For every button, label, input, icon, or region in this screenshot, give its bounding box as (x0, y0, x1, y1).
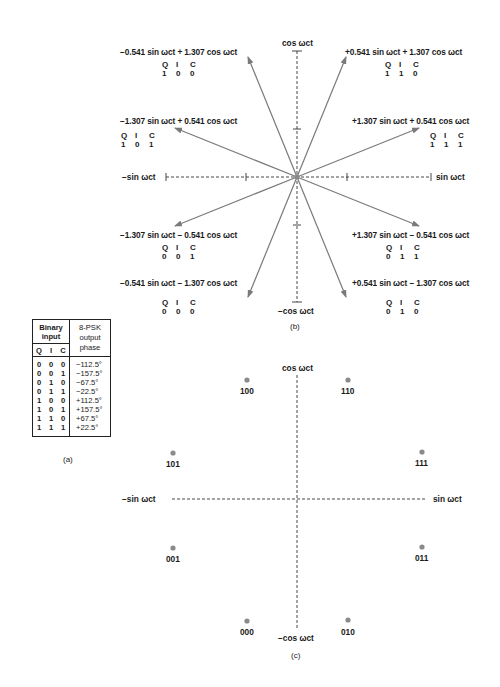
qic-q: 0 (386, 252, 400, 261)
qic-header-c: C (190, 298, 204, 307)
figure-c-caption: (c) (291, 651, 300, 660)
qic-i: 0 (176, 252, 190, 261)
qic-c: 1 (149, 140, 163, 149)
qic-q: 0 (386, 307, 400, 316)
qic-header-i: I (135, 131, 149, 140)
axis-label-pos-sin: sin ωct (433, 494, 462, 504)
cell-c: 1 (57, 369, 70, 378)
phasor-label-011: +1.307 sin ωct − 0.541 cos ωct (352, 230, 469, 240)
qic-header-q: Q (386, 298, 400, 307)
phasor-label-100: −0.541 sin ωct + 1.307 cos ωct (120, 47, 237, 57)
qic-q: 1 (385, 69, 399, 78)
qic-i: 0 (135, 140, 149, 149)
qic-header-q: Q (385, 60, 399, 69)
cell-phase: +112.5° (70, 396, 111, 405)
point-101 (170, 450, 175, 455)
qic-c: 0 (190, 69, 204, 78)
table-row: 0 1 0 −67.5° (33, 378, 111, 387)
axis-label-neg-cos: −cos ωct (278, 633, 314, 643)
cell-q: 1 (33, 414, 46, 423)
qic-header-i: I (176, 60, 190, 69)
cell-q: 0 (33, 387, 46, 396)
cell-c: 1 (57, 423, 70, 437)
cell-phase: +67.5° (70, 414, 111, 423)
axis-label-neg-sin: −sin ωct (122, 172, 156, 182)
qic-header-i: I (176, 298, 190, 307)
cell-q: 1 (33, 423, 46, 437)
truth-table: Binary input 8-PSK output phase Q I C 0 … (32, 319, 111, 437)
cell-phase: −157.5° (70, 369, 111, 378)
table-row: 1 0 1 +157.5° (33, 405, 111, 414)
phasor-label-101: −1.307 sin ωct + 0.541 cos ωct (120, 116, 237, 126)
qic-header-c: C (149, 131, 163, 140)
qic-111: Q I C 1 1 1 (430, 131, 472, 149)
phasor-label-000: −0.541 sin ωct − 1.307 cos ωct (120, 278, 237, 288)
qic-header-i: I (444, 131, 458, 140)
phasor-111 (297, 128, 419, 177)
qic-q: 0 (162, 307, 176, 316)
qic-q: 1 (121, 140, 135, 149)
phasor-label-001: −1.307 sin ωct − 0.541 cos ωct (120, 230, 237, 240)
qic-c: 0 (413, 69, 427, 78)
cell-q: 0 (33, 378, 46, 387)
constellation-points (170, 377, 424, 623)
point-label-101: 101 (166, 459, 180, 469)
figure-a-caption: (a) (63, 455, 73, 464)
point-label-110: 110 (341, 386, 354, 396)
point-label-001: 001 (166, 554, 180, 564)
axis-label-pos-cos: cos ωct (282, 38, 313, 48)
phasor-100 (248, 57, 297, 177)
qic-header-i: I (400, 243, 414, 252)
cell-i: 1 (45, 387, 57, 396)
qic-c: 1 (190, 252, 204, 261)
phasor-001 (175, 177, 297, 226)
cell-i: 1 (45, 414, 57, 423)
header-binary-input: Binary input (33, 320, 70, 344)
qic-header-c: C (414, 243, 428, 252)
qic-q: 0 (162, 252, 176, 261)
cell-c: 0 (57, 396, 70, 405)
qic-c: 1 (458, 140, 472, 149)
table-row: 1 1 1 +22.5° (33, 423, 111, 437)
cell-phase: +157.5° (70, 405, 111, 414)
cell-i: 0 (45, 360, 57, 369)
cell-q: 0 (33, 360, 46, 369)
qic-i: 1 (400, 252, 414, 261)
header-binary-line1: Binary (39, 323, 63, 332)
qic-c: 0 (190, 307, 204, 316)
point-label-000: 000 (240, 627, 254, 637)
table-row: 1 0 0 +112.5° (33, 396, 111, 405)
header-q: Q (33, 344, 46, 357)
point-label-011: 011 (415, 553, 428, 563)
qic-header-i: I (176, 243, 190, 252)
qic-000: Q I C 0 0 0 (162, 298, 204, 316)
point-111 (419, 449, 424, 454)
header-output-line2: output (79, 333, 100, 342)
phasor-origin (295, 175, 300, 180)
cell-i: 1 (45, 423, 57, 437)
qic-101: Q I C 1 0 1 (121, 131, 163, 149)
point-010 (345, 617, 350, 622)
cell-phase: +22.5° (70, 423, 111, 437)
qic-header-q: Q (162, 243, 176, 252)
qic-header-c: C (414, 298, 428, 307)
axis-label-neg-sin: −sin ωct (122, 494, 156, 504)
cell-q: 1 (33, 396, 46, 405)
qic-i: 1 (444, 140, 458, 149)
qic-010: Q I C 0 1 0 (386, 298, 428, 316)
point-100 (244, 377, 249, 382)
point-011 (419, 544, 424, 549)
qic-100: Q I C 1 0 0 (162, 60, 204, 78)
qic-i: 1 (399, 69, 413, 78)
cell-c: 1 (57, 387, 70, 396)
point-110 (345, 377, 350, 382)
header-output-line1: 8-PSK (79, 323, 101, 332)
point-label-010: 010 (341, 627, 355, 637)
phasor-101 (175, 128, 297, 177)
constellation-axes (172, 375, 426, 628)
cell-phase: −67.5° (70, 378, 111, 387)
qic-header-c: C (413, 60, 427, 69)
point-001 (170, 545, 175, 550)
qic-c: 0 (414, 307, 428, 316)
header-output-phase: 8-PSK output phase (70, 320, 111, 357)
